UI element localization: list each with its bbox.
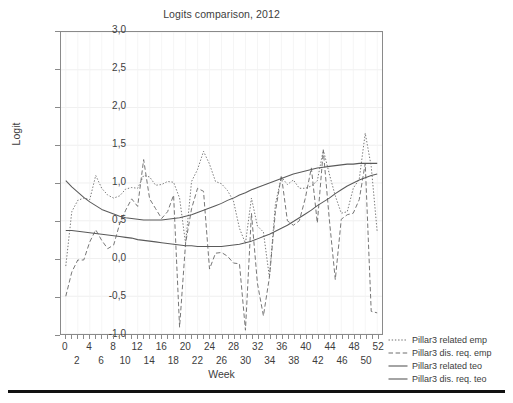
y-tick-label: -0,5 <box>86 290 126 301</box>
x-tick-mark <box>167 335 168 339</box>
x-tick-mark <box>179 335 180 339</box>
x-tick-label: 30 <box>233 355 259 366</box>
y-tick-label: 2,0 <box>86 100 126 111</box>
legend-item-3[interactable]: Pillar3 dis. req. teo <box>388 372 513 385</box>
x-tick-mark <box>173 335 174 339</box>
y-tick-mark <box>55 259 60 260</box>
x-tick-mark <box>203 335 204 339</box>
x-tick-label: 38 <box>281 355 307 366</box>
y-tick-mark <box>55 145 60 146</box>
y-tick-mark <box>55 297 60 298</box>
x-tick-mark <box>300 335 301 339</box>
x-tick-label: 16 <box>148 341 174 352</box>
x-tick-label: 46 <box>329 355 355 366</box>
y-tick-mark <box>55 183 60 184</box>
x-tick-mark <box>366 335 367 339</box>
x-tick-mark <box>258 335 259 339</box>
y-tick-mark <box>55 31 60 32</box>
x-tick-mark <box>336 335 337 339</box>
y-tick-label: 1,5 <box>86 138 126 149</box>
x-tick-mark <box>107 335 108 339</box>
bottom-divider <box>8 390 505 393</box>
x-tick-label: 22 <box>184 355 210 366</box>
x-tick-mark <box>348 335 349 339</box>
x-tick-label: 44 <box>317 341 343 352</box>
x-tick-mark <box>378 335 379 339</box>
x-tick-mark <box>197 335 198 339</box>
x-tick-mark <box>191 335 192 339</box>
chart-title: Logits comparison, 2012 <box>60 8 383 20</box>
x-tick-mark <box>252 335 253 339</box>
chart-figure: Logits comparison, 2012 Logit 3,02,52,01… <box>0 0 513 403</box>
legend-swatch-dotted-icon <box>388 335 408 345</box>
x-tick-label: 34 <box>257 355 283 366</box>
x-tick-label: 20 <box>172 341 198 352</box>
legend-item-1[interactable]: Pillar3 dis. req. emp <box>388 346 513 359</box>
x-tick-label: 50 <box>353 355 379 366</box>
x-tick-mark <box>119 335 120 339</box>
legend-label: Pillar3 related emp <box>412 335 487 345</box>
x-tick-mark <box>101 335 102 339</box>
x-tick-mark <box>185 335 186 339</box>
legend-label: Pillar3 dis. req. teo <box>412 374 487 384</box>
x-tick-mark <box>318 335 319 339</box>
x-tick-mark <box>149 335 150 339</box>
x-tick-mark <box>89 335 90 339</box>
x-tick-label: 24 <box>196 341 222 352</box>
x-tick-mark <box>209 335 210 339</box>
x-tick-mark <box>246 335 247 339</box>
x-tick-label: 40 <box>293 341 319 352</box>
x-tick-mark <box>240 335 241 339</box>
x-tick-mark <box>342 335 343 339</box>
legend-item-2[interactable]: Pillar3 related teo <box>388 359 513 372</box>
y-axis-label: Logit <box>10 94 22 174</box>
x-tick-label: 48 <box>341 341 367 352</box>
x-tick-mark <box>161 335 162 339</box>
x-tick-mark <box>77 335 78 339</box>
legend-label: Pillar3 dis. req. emp <box>412 348 492 358</box>
x-tick-mark <box>324 335 325 339</box>
x-tick-mark <box>294 335 295 339</box>
x-tick-mark <box>360 335 361 339</box>
x-tick-mark <box>131 335 132 339</box>
y-tick-label: 1,0 <box>86 176 126 187</box>
x-tick-mark <box>330 335 331 339</box>
x-tick-mark <box>354 335 355 339</box>
legend-item-0[interactable]: Pillar3 related emp <box>388 333 513 346</box>
x-tick-label: 10 <box>112 355 138 366</box>
y-tick-mark <box>55 107 60 108</box>
x-tick-label: 4 <box>76 341 102 352</box>
x-tick-mark <box>288 335 289 339</box>
x-tick-mark <box>234 335 235 339</box>
x-tick-mark <box>228 335 229 339</box>
x-tick-mark <box>276 335 277 339</box>
x-axis-label: Week <box>60 368 383 380</box>
legend-swatch-solid-icon <box>388 374 408 384</box>
chart-legend: Pillar3 related empPillar3 dis. req. emp… <box>388 333 513 385</box>
x-tick-mark <box>222 335 223 339</box>
x-tick-mark <box>113 335 114 339</box>
x-tick-mark <box>125 335 126 339</box>
x-tick-label: 12 <box>124 341 150 352</box>
x-tick-label: 36 <box>269 341 295 352</box>
x-tick-label: 2 <box>64 355 90 366</box>
x-tick-mark <box>137 335 138 339</box>
x-tick-mark <box>264 335 265 339</box>
y-tick-label: 2,5 <box>86 62 126 73</box>
x-tick-label: 32 <box>245 341 271 352</box>
x-tick-mark <box>155 335 156 339</box>
y-tick-label: 3,0 <box>86 24 126 35</box>
x-tick-label: 26 <box>209 355 235 366</box>
x-tick-mark <box>312 335 313 339</box>
x-tick-mark <box>71 335 72 339</box>
x-tick-mark <box>143 335 144 339</box>
y-tick-mark <box>55 221 60 222</box>
x-tick-mark <box>282 335 283 339</box>
x-tick-mark <box>65 335 66 339</box>
legend-label: Pillar3 related teo <box>412 361 482 371</box>
x-tick-mark <box>83 335 84 339</box>
x-tick-label: 0 <box>52 341 78 352</box>
x-tick-mark <box>372 335 373 339</box>
x-tick-label: 18 <box>160 355 186 366</box>
x-tick-mark <box>270 335 271 339</box>
